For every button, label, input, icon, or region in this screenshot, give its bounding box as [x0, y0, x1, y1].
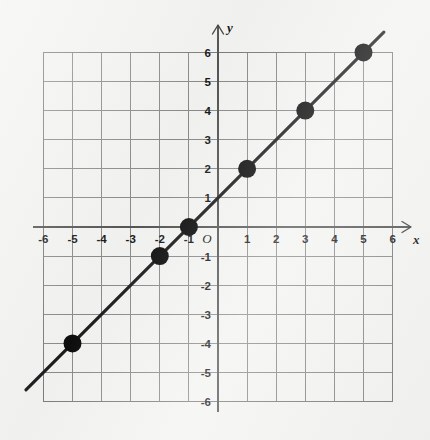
data-point: (-1, 0)	[180, 218, 198, 236]
x-tick-label: -3	[126, 233, 136, 245]
y-tick-label: 4	[205, 105, 212, 117]
x-tick-label: 4	[331, 233, 338, 245]
data-point: (5, 6)	[355, 43, 373, 61]
x-tick-label: 2	[273, 233, 279, 245]
coordinate-plane-figure: -6-5-4-3-2-1123456654321-1-2-3-4-5-6 (-5…	[0, 0, 430, 440]
y-tick-label: 1	[205, 192, 212, 204]
x-tick-label: -2	[155, 233, 165, 245]
x-axis-label: x	[412, 232, 420, 247]
y-tick-label: -1	[201, 251, 212, 263]
axes	[33, 25, 411, 412]
data-point: (3, 4)	[296, 102, 314, 120]
data-point: (1, 2)	[238, 160, 256, 178]
origin-label: O	[202, 231, 212, 246]
x-tick-label: -4	[96, 233, 107, 245]
x-tick-label: 3	[302, 233, 308, 245]
y-tick-label: -4	[201, 338, 212, 350]
x-tick-label: -6	[38, 233, 48, 245]
data-point: (-5, -4)	[64, 334, 82, 352]
y-tick-label: 5	[205, 76, 212, 88]
y-tick-label: 2	[205, 163, 211, 175]
x-tick-label: 6	[389, 233, 395, 245]
y-tick-label: 6	[205, 47, 211, 59]
axis-name-labels: xyO	[202, 20, 420, 247]
x-tick-label: -5	[67, 233, 78, 245]
y-tick-label: -3	[201, 309, 211, 321]
y-tick-label: 3	[205, 134, 211, 146]
y-tick-label: -5	[201, 367, 212, 379]
coordinate-plane-svg: -6-5-4-3-2-1123456654321-1-2-3-4-5-6 (-5…	[0, 0, 430, 440]
x-tick-label: 5	[360, 233, 367, 245]
y-tick-label: -6	[201, 396, 211, 408]
y-axis-label: y	[225, 20, 233, 35]
data-point: (-2, -1)	[151, 247, 169, 265]
x-tick-label: 1	[244, 233, 251, 245]
y-tick-label: -2	[201, 280, 211, 292]
